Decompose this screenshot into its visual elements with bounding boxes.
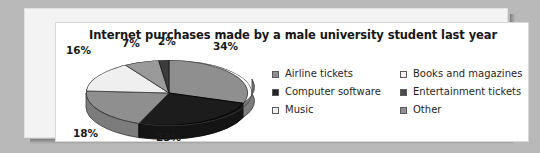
legend-label-other: Other [413, 105, 441, 115]
legend-swatch-computer-software [272, 89, 279, 96]
pie-label-airline-tickets: 34% [213, 40, 238, 52]
legend-item-computer-software[interactable]: Computer software [272, 83, 400, 101]
chart-card: Internet purchases made by a male univer… [55, 22, 529, 142]
chart-legend: Airline tickets Books and magazines Comp… [272, 65, 524, 121]
screenshot-root: Internet purchases made by a male univer… [0, 0, 540, 153]
legend-item-entertainment-tickets[interactable]: Entertainment tickets [400, 83, 524, 101]
pie-label-music: 18% [73, 127, 98, 139]
legend-label-computer-software: Computer software [285, 87, 381, 97]
pie-label-computer-software: 23% [156, 131, 181, 143]
pie-label-other: 2% [158, 35, 176, 47]
legend-swatch-music [272, 107, 279, 114]
legend-swatch-airline-tickets [272, 71, 279, 78]
pie-label-entertainment-tickets: 7% [122, 37, 140, 49]
legend-label-music: Music [285, 105, 313, 115]
pie-top-face [86, 60, 252, 126]
legend-item-airline-tickets[interactable]: Airline tickets [272, 65, 400, 83]
legend-item-other[interactable]: Other [400, 101, 524, 119]
chart-outer-frame: Internet purchases made by a male univer… [24, 8, 508, 138]
legend-label-entertainment-tickets: Entertainment tickets [413, 87, 521, 97]
legend-swatch-books-and-magazines [400, 71, 407, 78]
legend-item-books-and-magazines[interactable]: Books and magazines [400, 65, 524, 83]
legend-label-books-and-magazines: Books and magazines [413, 69, 522, 79]
pie-label-books-and-magazines: 16% [66, 44, 91, 56]
legend-label-airline-tickets: Airline tickets [285, 69, 353, 79]
pie-chart: 16% 7% 2% 34% 18% 23% [62, 43, 282, 141]
legend-item-music[interactable]: Music [272, 101, 400, 119]
legend-swatch-other [400, 107, 407, 114]
legend-swatch-entertainment-tickets [400, 89, 407, 96]
